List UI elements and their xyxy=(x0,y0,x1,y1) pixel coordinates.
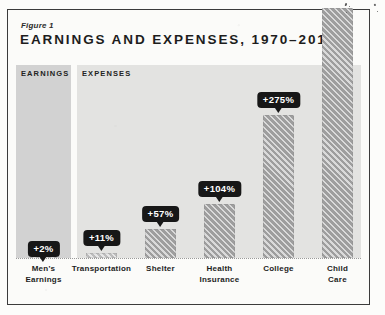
band-title-earnings: EARNINGS xyxy=(21,69,69,78)
bar-college[interactable] xyxy=(263,115,294,258)
callout-health-insurance: +104% xyxy=(198,181,241,197)
chart-plot-area: EARNINGS EXPENSES +2% +11% +57% +104% +2… xyxy=(8,65,369,304)
band-title-expenses: EXPENSES xyxy=(82,69,131,78)
callout-transportation: +11% xyxy=(83,230,120,246)
callout-college: +275% xyxy=(257,92,300,108)
scanned-page: Figure 1 EARNINGS AND EXPENSES, 1970–201… xyxy=(0,0,385,315)
bar-child-care[interactable] xyxy=(322,8,353,258)
band-earnings xyxy=(16,65,71,258)
scan-speckle xyxy=(374,4,376,7)
xlabel-line-1: Transportation xyxy=(72,263,132,274)
scan-speckle xyxy=(349,6,350,7)
xlabel-line-2: Earnings xyxy=(25,274,61,285)
callout-shelter: +57% xyxy=(142,206,180,222)
xlabel-line-1: College xyxy=(263,263,294,274)
xlabel-shelter: Shelter xyxy=(146,263,175,274)
figure-title: EARNINGS AND EXPENSES, 1970–2015 xyxy=(20,32,336,47)
xlabel-line-1: Men's xyxy=(25,263,61,274)
axis-baseline xyxy=(16,258,361,259)
xlabel-line-1: Shelter xyxy=(146,263,175,274)
xlabel-health-insurance: Health Insurance xyxy=(199,263,239,285)
xlabel-line-1: Child Care xyxy=(322,263,354,285)
bar-health-insurance[interactable] xyxy=(204,204,235,258)
bar-transportation[interactable] xyxy=(86,253,117,258)
scan-speckle xyxy=(377,11,378,12)
xlabel-transportation: Transportation xyxy=(72,263,132,274)
figure-frame: Figure 1 EARNINGS AND EXPENSES, 1970–201… xyxy=(7,9,370,305)
bar-shelter[interactable] xyxy=(145,229,176,258)
xlabel-mens-earnings: Men's Earnings xyxy=(25,263,61,285)
xlabel-college: College xyxy=(263,263,294,274)
xlabel-line-1: Health xyxy=(199,263,239,274)
xlabel-child-care: Child Care xyxy=(322,263,354,285)
scan-speckle xyxy=(345,3,347,6)
xlabel-line-2: Insurance xyxy=(199,274,239,285)
callout-mens-earnings: +2% xyxy=(27,241,59,257)
figure-label: Figure 1 xyxy=(21,21,54,30)
